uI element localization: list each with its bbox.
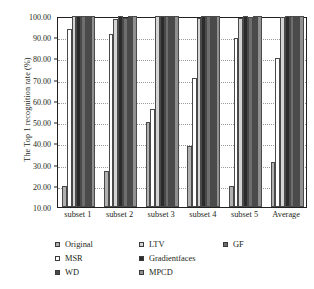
legend-swatch-icon (139, 270, 144, 275)
x-tick-label: subset 3 (148, 210, 175, 219)
legend-swatch-icon (139, 256, 144, 261)
x-tick-label: subset 2 (106, 210, 133, 219)
bar (174, 16, 179, 207)
legend-label: LTV (149, 240, 165, 249)
y-axis-tick-labels: 100.0090.0080.0070.0060.0050.0040.0030.0… (0, 17, 55, 208)
y-tick-label: 70.00 (33, 76, 51, 85)
y-tick-mark (54, 80, 57, 81)
x-tick-label: subset 5 (231, 210, 258, 219)
x-tick-label: subset 4 (189, 210, 216, 219)
chart-legend: OriginalLTVGFMSRGradientfacesWDMPCD (55, 237, 305, 279)
legend-item[interactable]: MPCD (139, 268, 223, 277)
y-tick-label: 30.00 (33, 161, 51, 170)
legend-label: GF (233, 240, 244, 249)
legend-swatch-icon (139, 242, 144, 247)
legend-row: WDMPCD (55, 265, 305, 279)
legend-label: MSR (65, 254, 83, 263)
bar-group (62, 18, 95, 207)
x-tick-label: Average (272, 210, 300, 219)
legend-row: MSRGradientfaces (55, 251, 305, 265)
legend-item[interactable]: LTV (139, 240, 223, 249)
legend-item[interactable]: MSR (55, 254, 139, 263)
plot-area (57, 17, 307, 208)
y-tick-label: 100.00 (29, 13, 51, 22)
legend-label: MPCD (149, 268, 173, 277)
legend-swatch-icon (55, 256, 60, 261)
legend-swatch-icon (55, 270, 60, 275)
bar (91, 16, 96, 207)
bar (299, 16, 304, 207)
y-tick-label: 50.00 (33, 119, 51, 128)
y-tick-label: 10.00 (33, 204, 51, 213)
y-tick-mark (54, 123, 57, 124)
bars-layer (58, 18, 306, 207)
legend-label: Original (65, 240, 93, 249)
chart-root: The Top 1 recognition rate (%) 100.0090.… (0, 0, 314, 289)
y-tick-label: 80.00 (33, 55, 51, 64)
legend-item[interactable]: GF (223, 240, 303, 249)
x-tick-label: subset 1 (64, 210, 91, 219)
y-tick-label: 90.00 (33, 34, 51, 43)
legend-item[interactable]: Gradientfaces (139, 254, 223, 263)
y-tick-mark (54, 59, 57, 60)
legend-swatch-icon (223, 242, 228, 247)
y-tick-label: 20.00 (33, 182, 51, 191)
bar-group (271, 18, 304, 207)
bar (257, 16, 262, 207)
y-tick-label: 40.00 (33, 140, 51, 149)
bar-group (229, 18, 262, 207)
legend-item[interactable]: WD (55, 268, 139, 277)
legend-swatch-icon (55, 242, 60, 247)
legend-item[interactable]: Original (55, 240, 139, 249)
y-tick-mark (54, 165, 57, 166)
bar (216, 16, 221, 207)
legend-row: OriginalLTVGF (55, 237, 305, 251)
bar (132, 16, 137, 207)
bar-group (104, 18, 137, 207)
legend-label: WD (65, 268, 79, 277)
y-tick-label: 60.00 (33, 97, 51, 106)
y-tick-mark (54, 186, 57, 187)
y-tick-mark (54, 101, 57, 102)
y-tick-mark (54, 144, 57, 145)
x-axis-tick-labels: subset 1subset 2subset 3subset 4subset 5… (57, 210, 307, 224)
bar-group (146, 18, 179, 207)
y-tick-mark (54, 38, 57, 39)
bar-group (187, 18, 220, 207)
legend-label: Gradientfaces (149, 254, 196, 263)
